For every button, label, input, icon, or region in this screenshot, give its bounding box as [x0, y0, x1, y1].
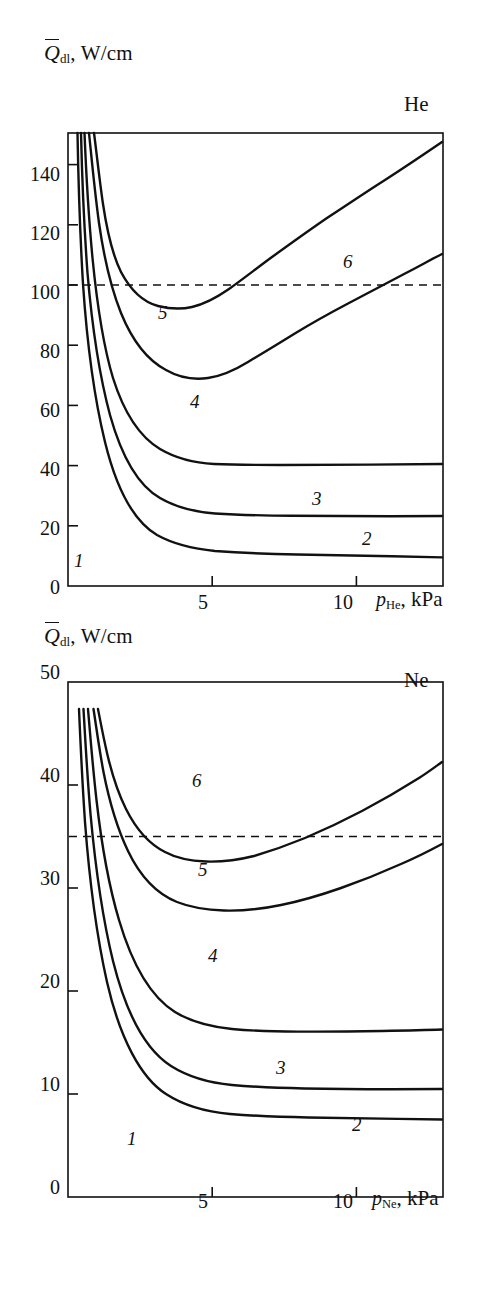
x-ticks-ne	[212, 1187, 356, 1197]
curve-ne-2	[84, 709, 443, 1089]
curve-he-3	[85, 133, 443, 465]
chart-panel-he: Qdl, W/cm He 0 20 40 60 80 100 120 140 5…	[0, 30, 500, 640]
curve-he-2	[81, 133, 442, 516]
curve-ne-4	[94, 709, 443, 911]
curve-he-4	[89, 133, 442, 379]
curve-he-1	[78, 133, 443, 557]
plot-svg-ne	[0, 620, 500, 1260]
chart-panel-ne: Qdl, W/cm Ne 0 10 20 30 40 50 5 10 pNe, …	[0, 620, 500, 1260]
curve-ne-5	[98, 709, 442, 862]
curve-ne-1	[79, 709, 442, 1120]
plot-frame-he	[68, 133, 443, 586]
x-ticks-he	[212, 576, 356, 586]
y-ticks-he	[68, 165, 78, 526]
figure-container: Qdl, W/cm He 0 20 40 60 80 100 120 140 5…	[0, 0, 500, 1295]
plot-svg-he	[0, 30, 500, 640]
y-ticks-ne	[68, 785, 78, 1094]
